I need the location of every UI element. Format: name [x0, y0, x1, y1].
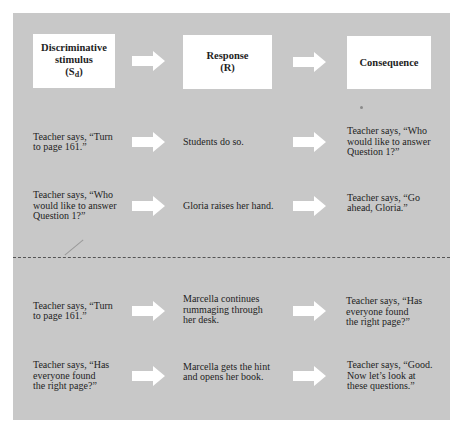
speck-mark [360, 106, 363, 109]
right-arrow-icon [132, 366, 165, 386]
row-3-stimulus: Teacher says, “Turn to page 161.” [33, 291, 125, 331]
row-4-consequence: Teacher says, “Good. Now let’s look at t… [347, 356, 447, 396]
row-2-stimulus-text: Teacher says, “Who would like to answer … [33, 190, 117, 222]
row-3-stimulus-text: Teacher says, “Turn to page 161.” [33, 301, 113, 322]
row-2-response-text: Gloria raises her hand. [183, 201, 274, 212]
row-1-response-text: Students do so. [183, 137, 244, 148]
row-2-consequence-text: Teacher says, “Go ahead, Gloria.” [347, 193, 420, 214]
header-response-line2: (R) [206, 62, 248, 74]
header-response-line1: Response [206, 50, 248, 62]
right-arrow-icon [293, 196, 326, 216]
header-consequence: Consequence [347, 36, 431, 89]
header-stimulus-symbol: (Sd) [41, 66, 107, 81]
row-1-stimulus-text: Teacher says, “Turn to page 161.” [33, 132, 113, 153]
row-4-stimulus: Teacher says, “Has everyone found the ri… [33, 356, 125, 396]
row-2-response: Gloria raises her hand. [183, 186, 293, 226]
row-4-stimulus-text: Teacher says, “Has everyone found the ri… [33, 360, 109, 392]
row-4-response: Marcella gets the hint and opens her boo… [183, 352, 293, 392]
row-2-stimulus: Teacher says, “Who would like to answer … [33, 186, 125, 226]
row-3-consequence: Teacher says, “Has everyone found the ri… [346, 292, 446, 332]
header-stimulus-line1: Discriminative [41, 42, 107, 54]
row-1-response: Students do so. [183, 122, 293, 162]
row-3-response-text: Marcella continues rummaging through her… [183, 294, 263, 326]
symbol-close: ) [79, 66, 83, 77]
row-4-response-text: Marcella gets the hint and opens her boo… [183, 362, 270, 383]
row-3-response: Marcella continues rummaging through her… [183, 290, 293, 330]
header-stimulus-line2: stimulus [41, 54, 107, 66]
right-arrow-icon [132, 132, 165, 152]
right-arrow-icon [132, 51, 165, 71]
right-arrow-icon [293, 366, 326, 386]
symbol-s: (S [65, 66, 74, 77]
row-2-consequence: Teacher says, “Go ahead, Gloria.” [347, 183, 447, 223]
row-1-stimulus: Teacher says, “Turn to page 161.” [33, 122, 125, 162]
header-consequence-line1: Consequence [360, 57, 419, 69]
right-arrow-icon [293, 301, 326, 321]
row-1-consequence-text: Teacher says, “Who would like to answer … [347, 126, 431, 158]
header-discriminative-stimulus: Discriminative stimulus (Sd) [33, 34, 115, 88]
right-arrow-icon [293, 132, 326, 152]
dashed-divider [13, 257, 450, 258]
right-arrow-icon [132, 301, 165, 321]
row-1-consequence: Teacher says, “Who would like to answer … [347, 122, 447, 162]
header-response: Response (R) [183, 35, 272, 89]
right-arrow-icon [293, 52, 326, 72]
right-arrow-icon [132, 196, 165, 216]
row-3-consequence-text: Teacher says, “Has everyone found the ri… [346, 296, 422, 328]
row-4-consequence-text: Teacher says, “Good. Now let’s look at t… [347, 360, 432, 392]
